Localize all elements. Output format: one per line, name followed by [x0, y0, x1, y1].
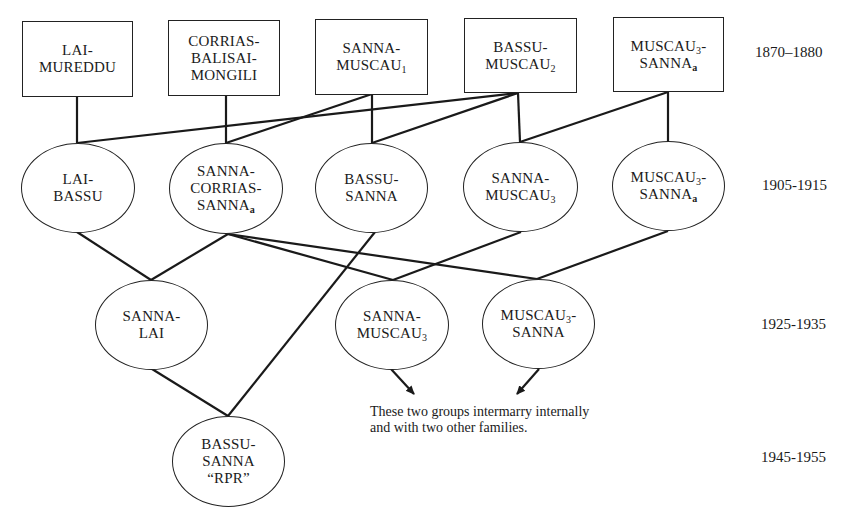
- edge-muscau3-sannaa-to-muscau3-sanna: [537, 231, 668, 279]
- label-line: MUSCAU: [485, 187, 550, 203]
- label-line: SANNA-: [343, 40, 401, 56]
- label-line: SANNA-: [123, 308, 181, 324]
- subscript: a: [692, 193, 697, 204]
- ellipse-muscau3-sannaa: MUSCAU3-SANNAa: [612, 141, 725, 231]
- box-muscau3-sannaa: MUSCAU3-SANNAa: [613, 17, 724, 92]
- label-line: MUSCAU: [357, 325, 422, 341]
- label-line: BASSU-: [493, 39, 548, 55]
- label-line: BASSU-: [344, 171, 399, 187]
- edge-sanna-corrias-to-sanna-lai: [151, 234, 228, 280]
- arrow-sanna-muscau3-to-note: [391, 369, 414, 394]
- box-corrias-balisai-mongili: CORRIAS-BALISAI-MONGILI: [168, 20, 280, 96]
- edge-muscau3-sannaa-to-sanna-muscau3: [520, 92, 668, 142]
- subscript: 1: [402, 64, 407, 75]
- label-line: -: [571, 307, 576, 323]
- ellipse-lai-bassu: LAI-BASSU: [21, 143, 135, 233]
- label-line: SANNA: [640, 186, 693, 202]
- ellipse-bassu-sanna: BASSU-SANNA: [315, 143, 428, 233]
- ellipse-sanna-lai: SANNA-LAI: [95, 280, 208, 370]
- subscript: 2: [551, 63, 556, 74]
- edge-bassu-muscau2-to-sanna-muscau3: [518, 93, 520, 142]
- subscript: 3: [551, 194, 556, 205]
- label-line: BASSU: [53, 188, 102, 204]
- box-lai-mureddu: LAI-MUREDDU: [22, 21, 133, 97]
- period-label-1945-1955: 1945-1955: [761, 449, 826, 466]
- label-line: -: [701, 169, 706, 185]
- period-label-1905-1915: 1905-1915: [762, 177, 827, 194]
- period-label-1870-1880: 1870–1880: [755, 44, 823, 61]
- label-line: “RPR”: [207, 470, 250, 486]
- box-sanna-muscau1: SANNA-MUSCAU1: [315, 19, 428, 95]
- label-line: MUSCAU: [631, 38, 696, 54]
- label-line: MUSCAU: [336, 57, 401, 73]
- label-line: LAI: [139, 325, 165, 341]
- label-line: SANNA: [512, 324, 565, 340]
- label-line: MONGILI: [191, 67, 257, 83]
- subscript: a: [250, 204, 255, 215]
- edge-lai-bassu-to-sanna-lai: [77, 232, 151, 280]
- label-line: LAI-: [62, 42, 93, 58]
- label-line: SANNA-: [197, 163, 255, 179]
- edge-sanna-corrias-to-muscau3-sanna: [228, 234, 537, 279]
- ellipse-muscau3-sanna-g3: MUSCAU3-SANNA: [482, 279, 595, 369]
- label-line: MUSCAU: [501, 307, 566, 323]
- label-line: LAI-: [63, 171, 94, 187]
- ellipse-bassu-sanna-rpr: BASSU-SANNA“RPR”: [172, 416, 285, 507]
- ellipse-sanna-muscau3-g3: SANNA-MUSCAU3: [335, 280, 449, 370]
- ellipse-sanna-muscau3: SANNA-MUSCAU3: [463, 142, 578, 232]
- box-bassu-muscau2: BASSU-MUSCAU2: [464, 18, 577, 93]
- label-line: SANNA: [640, 55, 693, 71]
- label-line: SANNA: [197, 197, 250, 213]
- label-line: MUSCAU: [485, 56, 550, 72]
- label-line: BASSU-: [201, 436, 256, 452]
- label-line: SANNA-: [363, 308, 421, 324]
- arrow-muscau3-sanna-to-note: [517, 369, 539, 394]
- subscript: a: [692, 62, 697, 73]
- ellipse-sanna-corrias-sannaa: SANNA-CORRIAS-SANNAa: [169, 143, 283, 234]
- label-line: MUREDDU: [39, 59, 116, 75]
- label-line: BALISAI-: [191, 50, 257, 66]
- label-line: CORRIAS-: [190, 180, 262, 196]
- period-label-1925-1935: 1925-1935: [761, 316, 826, 333]
- label-line: MUSCAU: [631, 169, 696, 185]
- label-line: CORRIAS-: [188, 33, 260, 49]
- label-line: SANNA: [345, 188, 398, 204]
- subscript: 3: [422, 332, 427, 343]
- edge-sanna-muscau1-to-sanna-corrias: [226, 94, 372, 143]
- label-line: SANNA-: [492, 170, 550, 186]
- edge-sanna-lai-to-rpr: [152, 369, 228, 416]
- label-line: SANNA: [202, 453, 255, 469]
- label-line: -: [701, 38, 706, 54]
- intermarriage-note: These two groups intermarry internally a…: [370, 404, 600, 435]
